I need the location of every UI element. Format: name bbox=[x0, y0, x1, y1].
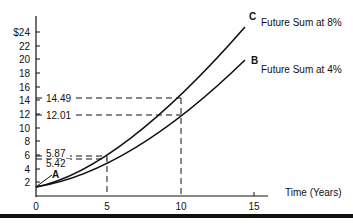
y-tick-label: 22 bbox=[19, 41, 31, 52]
y-tick-labels: $24 22 20 18 16 14 12 10 8 6 4 2 bbox=[13, 27, 30, 188]
y-tick-label: 8 bbox=[24, 136, 30, 147]
value-label-12-01: 12.01 bbox=[46, 110, 71, 121]
y-tick-label: 16 bbox=[19, 82, 31, 93]
marker-c: C bbox=[249, 11, 256, 22]
y-tick-label: 4 bbox=[24, 164, 30, 175]
y-tick-label: $24 bbox=[13, 27, 30, 38]
value-label-14-49: 14.49 bbox=[46, 93, 71, 104]
x-tick-label: 5 bbox=[104, 201, 110, 212]
x-tick-label: 0 bbox=[33, 201, 39, 212]
y-tick-label: 10 bbox=[19, 123, 31, 134]
x-tick-labels: 0 5 10 15 bbox=[33, 201, 260, 212]
y-tick-label: 6 bbox=[24, 150, 30, 161]
legend-8-percent: Future Sum at 8% bbox=[261, 17, 342, 28]
legend-4-percent: Future Sum at 4% bbox=[261, 64, 342, 75]
marker-b: B bbox=[251, 55, 258, 66]
y-tick-label: 2 bbox=[24, 177, 30, 188]
marker-a: A bbox=[52, 169, 59, 180]
y-tick-label: 20 bbox=[19, 54, 31, 65]
y-tick-label: 12 bbox=[19, 109, 31, 120]
y-tick-label: 14 bbox=[19, 95, 31, 106]
future-sum-chart: $24 22 20 18 16 14 12 10 8 6 4 2 0 5 10 … bbox=[0, 0, 353, 224]
x-axis-label: Time (Years) bbox=[285, 187, 342, 198]
value-label-5-42: 5.42 bbox=[46, 158, 66, 169]
y-tick-label: 18 bbox=[19, 68, 31, 79]
bottom-border bbox=[0, 214, 353, 218]
x-tick-label: 15 bbox=[248, 201, 260, 212]
x-tick-label: 10 bbox=[175, 201, 187, 212]
